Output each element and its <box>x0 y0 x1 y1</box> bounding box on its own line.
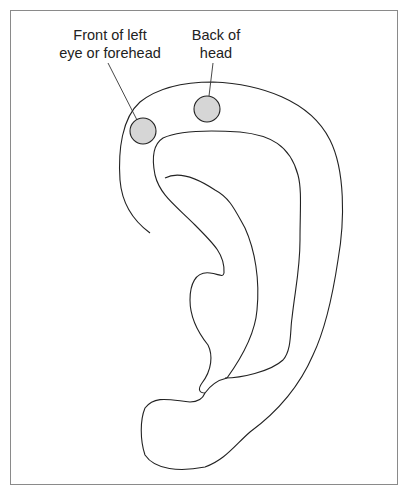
ear-diagram <box>0 0 407 491</box>
label-back-of-head: Back of head <box>184 26 248 62</box>
point-front-of-left-eye-or-forehead <box>130 118 156 144</box>
antihelix-outer <box>153 131 300 393</box>
label-back-line1: Back of <box>184 26 248 44</box>
label-back-line2: head <box>184 44 248 62</box>
label-front-line2: eye or forehead <box>50 44 170 62</box>
antihelix-inner <box>165 175 258 378</box>
label-front-line1: Front of left <box>50 26 170 44</box>
leader-line-back <box>209 63 213 96</box>
leader-line-front <box>108 63 137 120</box>
label-front-of-left-eye: Front of left eye or forehead <box>50 26 170 62</box>
concha-edge <box>205 378 227 393</box>
point-back-of-head <box>194 96 220 122</box>
